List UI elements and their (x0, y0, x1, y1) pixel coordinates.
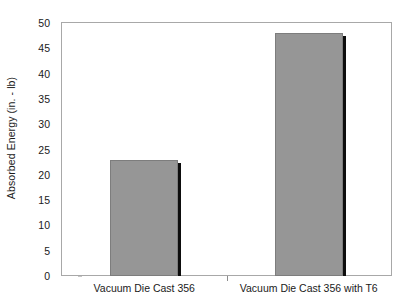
y-axis-tick-label: 10 (38, 219, 50, 231)
x-axis-tick-mark (227, 276, 228, 281)
y-axis-tick-label: 15 (38, 194, 50, 206)
bar[interactable] (275, 33, 343, 276)
y-axis-tick-label: 30 (38, 118, 50, 130)
x-axis-category-labels: Vacuum Die Cast 356Vacuum Die Cast 356 w… (62, 282, 391, 302)
y-axis-tick-label: 35 (38, 93, 50, 105)
bar-group[interactable] (110, 23, 178, 276)
bar-chart: Absorbed Energy (in. - lb) 0510152025303… (0, 0, 407, 304)
y-axis-tick-label: 50 (38, 17, 50, 29)
y-axis-tick-label: 0 (44, 270, 50, 282)
x-axis-ticks (62, 276, 391, 281)
y-axis-tick-label: 25 (38, 144, 50, 156)
y-axis-tick-label: 5 (44, 245, 50, 257)
x-axis-category-label: Vacuum Die Cast 356 with T6 (240, 282, 378, 294)
bars-layer (62, 23, 391, 276)
y-axis-tick-label: 45 (38, 42, 50, 54)
x-axis-category-label: Vacuum Die Cast 356 (94, 282, 195, 294)
y-axis-title: Absorbed Energy (in. - lb) (0, 0, 22, 276)
y-axis-title-text: Absorbed Energy (in. - lb) (5, 77, 17, 199)
bar-group[interactable] (275, 23, 343, 276)
y-axis-tick-label: 20 (38, 169, 50, 181)
y-axis-tick-label: 40 (38, 68, 50, 80)
bar[interactable] (110, 160, 178, 276)
y-axis-tick-labels: 05101520253035404550 (22, 22, 56, 276)
